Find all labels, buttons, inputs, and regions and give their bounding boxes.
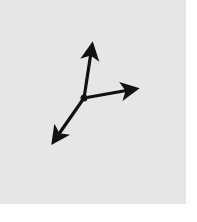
right-axis-arrow-icon (84, 89, 135, 98)
down-left-axis-arrow-icon (54, 98, 84, 141)
axes-diagram (0, 0, 197, 222)
origin-point (81, 95, 88, 102)
up-axis-arrow-icon (84, 46, 92, 98)
